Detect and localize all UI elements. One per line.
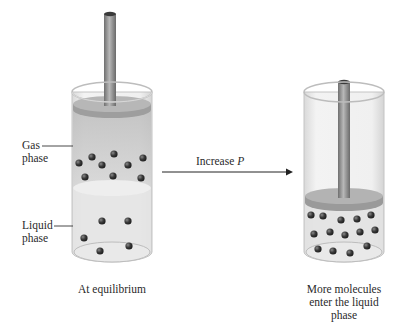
liquid-label-line-1: Liquid (22, 219, 53, 232)
left-caption: At equilibrium (62, 283, 162, 296)
right-caption-line-2: enter the liquid (294, 296, 394, 309)
gas-phase-label: Gas phase (22, 139, 48, 165)
left-rod (104, 14, 116, 106)
right-caption: More molecules enter the liquid phase (294, 283, 394, 322)
left-rod-top (104, 12, 116, 16)
left-liquid-surface (73, 180, 151, 196)
arrow-label-text: Increase (196, 155, 237, 167)
arrow-label-variable: P (237, 155, 244, 167)
right-caption-line-1: More molecules (294, 283, 394, 296)
right-rod (338, 82, 350, 198)
liquid-phase-label: Liquid phase (22, 219, 53, 245)
left-cylinder (42, 12, 152, 262)
left-bottom (74, 242, 150, 262)
arrow-label: Increase P (196, 155, 244, 168)
liquid-label-line-2: phase (22, 232, 53, 245)
gas-label-line-2: phase (22, 152, 48, 165)
right-caption-line-3: phase (294, 309, 394, 322)
gas-label-line-1: Gas (22, 139, 48, 152)
increase-pressure-arrow (162, 169, 293, 176)
right-cylinder (304, 80, 384, 262)
